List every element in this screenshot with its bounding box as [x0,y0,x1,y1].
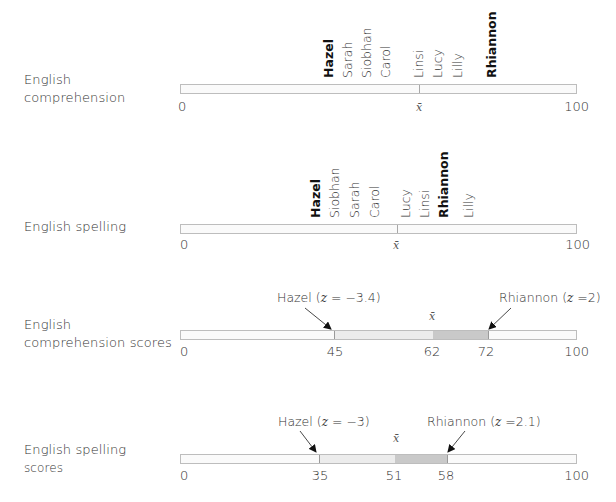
arrow-icon [300,431,316,452]
callout-arrows [0,0,616,502]
arrow-icon [489,308,511,329]
arrow-icon [305,308,331,329]
arrow-icon [448,431,465,452]
